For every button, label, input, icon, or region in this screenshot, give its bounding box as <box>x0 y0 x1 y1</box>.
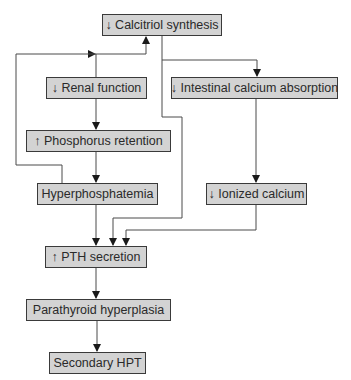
node-ionized-calcium: ↓ Ionized calcium <box>206 183 307 205</box>
node-pth-secretion: ↑ PTH secretion <box>45 246 147 268</box>
flowchart-canvas: ↓ Calcitriol synthesis ↓ Renal function … <box>0 0 351 380</box>
node-intestinal-calcium-absorption: ↓ Intestinal calcium absorption <box>171 77 338 99</box>
node-parathyroid-hyperplasia: Parathyroid hyperplasia <box>26 299 171 321</box>
node-phosphorus-retention: ↑ Phosphorus retention <box>26 130 171 152</box>
connector-calcitriol-to-intestinal <box>162 36 257 76</box>
connector-renal-to-calcitriol <box>96 37 146 77</box>
node-hyperphosphatemia: Hyperphosphatemia <box>37 183 158 205</box>
connector-hyperphos-to-calcitriol <box>16 54 96 183</box>
connector-ionized-to-pth <box>126 205 256 245</box>
node-calcitriol-synthesis: ↓ Calcitriol synthesis <box>102 14 222 36</box>
node-renal-function: ↓ Renal function <box>46 77 147 99</box>
node-secondary-hpt: Secondary HPT <box>49 352 146 374</box>
